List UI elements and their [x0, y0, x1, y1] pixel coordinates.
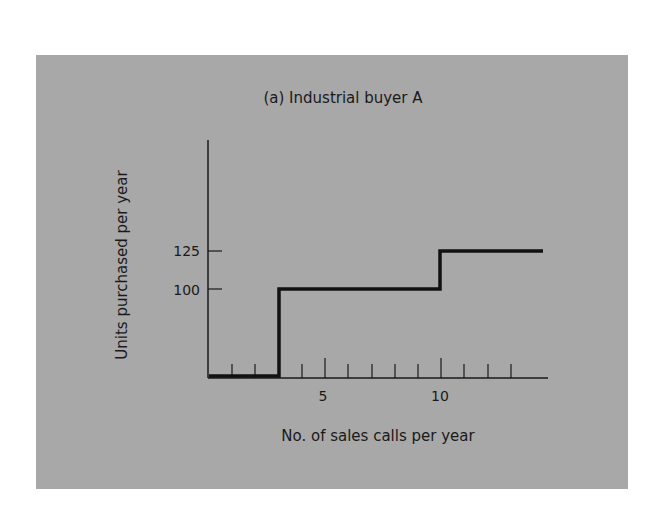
- x-tick-label-10: 10: [431, 388, 449, 404]
- y-axis-label: Units purchased per year: [113, 169, 131, 359]
- x-axis-label: No. of sales calls per year: [281, 427, 475, 445]
- y-tick-label-100: 100: [173, 282, 200, 298]
- chart-title: (a) Industrial buyer A: [263, 89, 423, 107]
- chart-svg: (a) Industrial buyer A 125 100 5 10 No. …: [0, 0, 660, 523]
- y-tick-label-125: 125: [173, 243, 200, 259]
- x-tick-label-5: 5: [319, 388, 328, 404]
- step-line-series: [209, 251, 543, 376]
